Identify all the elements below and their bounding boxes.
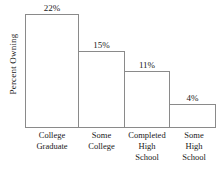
- bar-completed-high-school: 11%: [124, 71, 170, 128]
- category-line: Completed: [123, 130, 171, 141]
- category-label-completed-high-school: Completed High School: [123, 130, 171, 163]
- category-line: School: [171, 152, 217, 163]
- bar-value-college-graduate: 22%: [26, 3, 78, 15]
- category-label-some-high-school: Some High School: [171, 130, 217, 163]
- bar-some-high-school: 4%: [169, 104, 216, 128]
- category-line: School: [123, 152, 171, 163]
- category-line: High: [171, 141, 217, 152]
- bar-value-completed-high-school: 11%: [125, 60, 169, 72]
- bar-some-college: 15%: [78, 51, 125, 128]
- category-label-some-college: Some College: [78, 130, 125, 152]
- bar-value-some-college: 15%: [79, 40, 124, 52]
- bar-college-graduate: 22%: [25, 14, 79, 128]
- plot-area: 22% 15% 11% 4%: [25, 4, 217, 128]
- category-line: Some: [171, 130, 217, 141]
- x-axis-category-labels: College Graduate Some College Completed …: [25, 130, 217, 168]
- category-line: High: [123, 141, 171, 152]
- x-axis-line: [25, 127, 216, 128]
- bar-chart: Percent Owning 22% 15% 11% 4% College Gr…: [0, 0, 224, 169]
- y-axis-label: Percent Owning: [2, 0, 24, 127]
- category-label-college-graduate: College Graduate: [25, 130, 79, 152]
- y-axis-label-text: Percent Owning: [8, 33, 18, 94]
- category-line: Graduate: [25, 141, 79, 152]
- category-line: Some: [78, 130, 125, 141]
- bar-value-some-high-school: 4%: [170, 93, 215, 105]
- category-line: College: [25, 130, 79, 141]
- category-line: College: [78, 141, 125, 152]
